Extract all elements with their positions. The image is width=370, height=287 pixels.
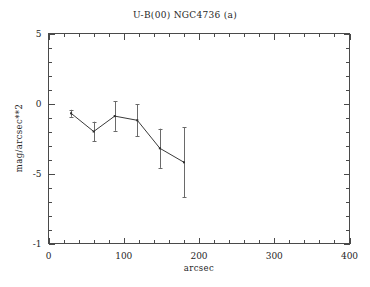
- x-axis-tick-labels: 0100200300400: [46, 251, 359, 261]
- x-tick-label: 400: [341, 251, 358, 261]
- x-tick-label: 100: [115, 251, 132, 261]
- x-axis-label: arcsec: [184, 263, 214, 273]
- y-axis-ticks: [49, 35, 350, 245]
- y-axis-label: mag/arcsec**2: [14, 104, 24, 173]
- x-tick-label: 0: [46, 251, 52, 261]
- chart-canvas: 0100200300400 50-5-1 arcsec mag/arcsec**…: [0, 0, 370, 287]
- error-bars: [70, 101, 187, 197]
- y-tick-label: -1: [33, 239, 42, 249]
- y-axis-tick-labels: 50-5-1: [33, 29, 42, 249]
- x-tick-label: 200: [190, 251, 207, 261]
- data-point-marker: [159, 147, 161, 149]
- y-tick-label: 0: [36, 99, 42, 109]
- plot-frame: [49, 34, 350, 244]
- y-tick-label: -5: [33, 169, 42, 179]
- data-point-marker: [70, 112, 72, 114]
- y-tick-label: 5: [36, 29, 42, 39]
- data-point-marker: [136, 119, 138, 121]
- data-points: [70, 112, 185, 163]
- data-series-line: [71, 113, 184, 162]
- data-point-marker: [93, 131, 95, 133]
- x-tick-label: 300: [266, 251, 283, 261]
- data-point-marker: [114, 115, 116, 117]
- data-point-marker: [183, 161, 185, 163]
- figure-container: U-B(00) NGC4736 (a) 0100200300400 50-5-1…: [0, 0, 370, 287]
